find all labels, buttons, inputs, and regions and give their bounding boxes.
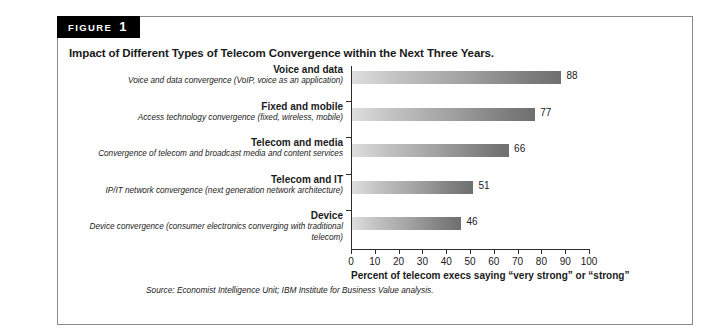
x-tick-label: 80 [536, 256, 547, 267]
bar-container: 77 [352, 108, 694, 121]
category-label: Device [73, 210, 343, 222]
category-tick [346, 174, 352, 175]
x-tick-mark [565, 249, 566, 254]
category-description: Voice and data convergence (VoIP, voice … [73, 76, 343, 86]
x-tick-mark [446, 249, 447, 254]
category-description: Device convergence (consumer electronics… [73, 222, 343, 242]
bar-value-label: 46 [466, 216, 477, 227]
source-note: Source: Economist Intelligence Unit; IBM… [146, 285, 433, 295]
bar-rows: Voice and dataVoice and data convergence… [58, 64, 694, 247]
x-tick-mark [589, 249, 590, 254]
category-description: Convergence of telecom and broadcast med… [73, 149, 343, 159]
x-tick-mark [351, 249, 352, 254]
bar: 46 [352, 217, 461, 230]
category-description: IP/IT network convergence (next generati… [73, 186, 343, 196]
x-axis-ticks: 0102030405060708090100 [351, 249, 589, 271]
bar-row: DeviceDevice convergence (consumer elect… [58, 210, 694, 247]
category-label: Telecom and media [73, 137, 343, 149]
figure-badge: FIGURE 1 [57, 16, 140, 38]
bar-label-group: Voice and dataVoice and data convergence… [73, 64, 343, 86]
bar-row: Telecom and mediaConvergence of telecom … [58, 137, 694, 174]
bar-row: Voice and dataVoice and data convergence… [58, 64, 694, 101]
bar-value-label: 88 [566, 70, 577, 81]
category-label: Telecom and IT [73, 174, 343, 186]
x-tick-mark [541, 249, 542, 254]
category-tick [346, 101, 352, 102]
x-tick-label: 50 [464, 256, 475, 267]
figure-frame: FIGURE 1 Impact of Different Types of Te… [57, 16, 693, 325]
bar-row: Telecom and ITIP/IT network convergence … [58, 174, 694, 211]
x-tick-label: 20 [393, 256, 404, 267]
bar-label-group: DeviceDevice convergence (consumer elect… [73, 210, 343, 242]
bar-value-label: 77 [540, 107, 551, 118]
bar-row: Fixed and mobileAccess technology conver… [58, 101, 694, 138]
x-tick-label: 60 [488, 256, 499, 267]
figure-badge-word: FIGURE [68, 23, 112, 33]
x-tick-label: 100 [581, 256, 598, 267]
bar-label-group: Telecom and ITIP/IT network convergence … [73, 174, 343, 196]
x-tick-label: 70 [512, 256, 523, 267]
x-axis-title: Percent of telecom execs saying “very st… [351, 270, 589, 281]
bar-container: 51 [352, 181, 694, 194]
x-tick-mark [470, 249, 471, 254]
category-label: Voice and data [73, 64, 343, 76]
bar-container: 88 [352, 71, 694, 84]
bar-label-group: Fixed and mobileAccess technology conver… [73, 101, 343, 123]
bar-container: 46 [352, 217, 694, 230]
bar: 51 [352, 181, 473, 194]
x-tick-label: 90 [560, 256, 571, 267]
bar-label-group: Telecom and mediaConvergence of telecom … [73, 137, 343, 159]
figure-badge-number: 1 [119, 20, 126, 33]
category-label: Fixed and mobile [73, 101, 343, 113]
category-description: Access technology convergence (fixed, wi… [73, 113, 343, 123]
x-tick-mark [518, 249, 519, 254]
category-tick [346, 137, 352, 138]
x-tick-mark [494, 249, 495, 254]
bar-container: 66 [352, 144, 694, 157]
x-tick-label: 10 [369, 256, 380, 267]
bar-value-label: 66 [514, 143, 525, 154]
x-tick-mark [375, 249, 376, 254]
page-title: Impact of Different Types of Telecom Con… [69, 47, 494, 59]
x-tick-mark [422, 249, 423, 254]
bar: 77 [352, 108, 535, 121]
category-tick [346, 210, 352, 211]
x-tick-label: 0 [348, 256, 354, 267]
x-tick-label: 40 [441, 256, 452, 267]
x-tick-mark [399, 249, 400, 254]
x-tick-label: 30 [417, 256, 428, 267]
bar: 88 [352, 71, 561, 84]
bar: 66 [352, 144, 509, 157]
bar-value-label: 51 [478, 180, 489, 191]
